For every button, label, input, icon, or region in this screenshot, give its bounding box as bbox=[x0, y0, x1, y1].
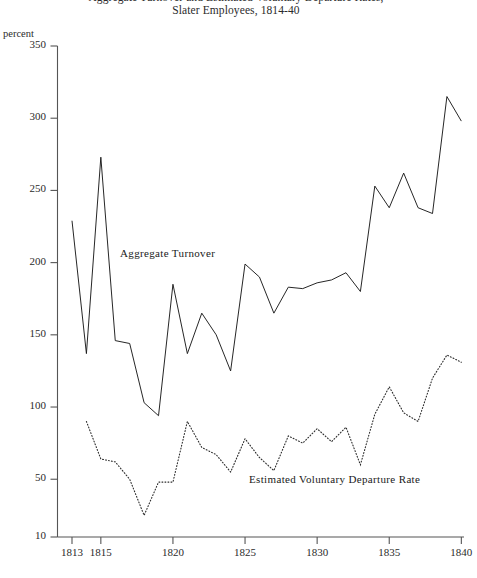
series-annotation-aggregate-turnover: Aggregate Turnover bbox=[120, 247, 215, 259]
y-tick-label: 250 bbox=[4, 182, 46, 194]
series-annotation-departure-rate: Estimated Voluntary Departure Rate bbox=[249, 473, 420, 485]
x-tick-label: 1830 bbox=[287, 546, 347, 558]
y-tick-label: 100 bbox=[4, 399, 46, 411]
x-tick-label: 1820 bbox=[143, 546, 203, 558]
y-tick-label: 10 bbox=[4, 529, 46, 541]
y-tick-label: 200 bbox=[4, 255, 46, 267]
x-tick-label: 1815 bbox=[71, 546, 131, 558]
x-tick-label: 1825 bbox=[215, 546, 275, 558]
y-tick-label: 350 bbox=[4, 38, 46, 50]
y-tick-label: 150 bbox=[4, 327, 46, 339]
y-tick-label: 50 bbox=[4, 471, 46, 483]
x-tick-label: 1835 bbox=[359, 546, 419, 558]
x-tick-label: 1840 bbox=[431, 546, 477, 558]
y-tick-label: 300 bbox=[4, 110, 46, 122]
series-line-estimated-voluntary-departure-rate bbox=[86, 355, 461, 515]
